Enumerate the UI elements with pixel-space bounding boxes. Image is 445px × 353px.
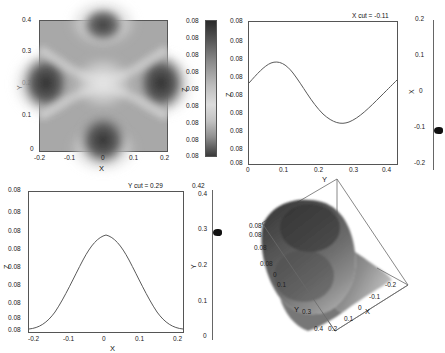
ycut-ytick-5: 0.08 <box>8 246 21 253</box>
yslider-tick-0: 0.4 <box>198 191 207 198</box>
surface-xtick-2: 0 <box>358 305 362 312</box>
yslider-tick-1: 0.3 <box>198 226 207 233</box>
ycut-panel: Y cut = 0.29 0.08 0.08 0.08 0.08 0.08 0.… <box>0 176 222 353</box>
ycut-ylabel: Z <box>3 265 10 269</box>
ycut-plot-area[interactable] <box>28 191 184 333</box>
xcut-ytick-1: 0.08 <box>230 146 243 153</box>
surface-ytick-3: 0.4 <box>314 326 323 333</box>
xslider-tick-3: -0.1 <box>414 124 425 131</box>
xcut-xtick-4: 0.4 <box>382 167 391 174</box>
yslider-tick-2: 0.2 <box>198 262 207 269</box>
xcut-plot-area[interactable] <box>248 21 398 165</box>
surface-ztick-1: 0.08 <box>254 245 267 252</box>
yslider-knob[interactable] <box>213 229 222 236</box>
heatmap-panel: 0.4 0.3 0.2 0.1 0 Y <box>0 0 222 176</box>
xcut-xtick-0: 0 <box>246 167 250 174</box>
ycut-xtick-4: 0.2 <box>173 336 182 343</box>
xcut-xtick-2: 0.2 <box>314 167 323 174</box>
ycut-ytick-0: 0.08 <box>8 327 21 334</box>
xcut-xtick-3: 0.3 <box>349 167 358 174</box>
colorbar-tick-0: 0.08 <box>186 153 199 160</box>
xslider-tick-0: 0.2 <box>415 16 424 23</box>
surface-xtick-1: -0.1 <box>369 294 380 301</box>
xslider-tick-4: -0.2 <box>414 160 425 167</box>
ycut-xtick-3: 0.1 <box>135 336 144 343</box>
ycut-ytick-3: 0.08 <box>8 282 21 289</box>
ycut-xtick-1: -0.1 <box>63 336 74 343</box>
ycut-xtick-0: -0.2 <box>28 336 39 343</box>
heatmap-xtick-0: -0.2 <box>34 155 45 162</box>
xslider-track[interactable] <box>433 20 434 170</box>
heatmap-ytick-4: 0.4 <box>22 17 31 24</box>
colorbar-tick-5: 0.08 <box>186 69 199 76</box>
ycut-ytick-8: 0.08 <box>8 187 21 194</box>
surface-panel[interactable]: 0.08 0.08 0.08 0.08 0 0.1 0.3 0.4 Y 0.2 … <box>222 176 445 353</box>
colorbar-tick-7: 0.08 <box>186 35 199 42</box>
colorbar-strip[interactable] <box>205 20 217 157</box>
colorbar-tick-2: 0.08 <box>186 120 199 127</box>
colorbar-tick-6: 0.08 <box>186 52 199 59</box>
heatmap-xtick-1: -0.1 <box>64 155 75 162</box>
colorbar-tick-8: 0.08 <box>186 18 199 25</box>
xslider-tick-2: 0 <box>419 88 423 95</box>
yslider-track[interactable] <box>212 190 213 340</box>
heatmap-xtick-4: 0.2 <box>160 155 169 162</box>
surface-xtick-3: 0.1 <box>344 316 353 323</box>
xslider-label: X <box>408 89 415 94</box>
xcut-ytick-7: 0.08 <box>230 38 243 45</box>
xcut-ytick-6: 0.08 <box>230 56 243 63</box>
xcut-panel: X cut = -0.11 0.08 0.08 0.08 0.08 0.08 0… <box>222 0 445 176</box>
xslider-knob[interactable] <box>434 127 443 134</box>
xslider-tick-1: 0.1 <box>415 52 424 59</box>
heatmap-xtick-3: 0.1 <box>129 155 138 162</box>
surface-xtick-4: 0.2 <box>328 326 337 333</box>
yslider-top-label: 0.42 <box>192 183 205 190</box>
surface-ztick-0: 0.08 <box>260 261 273 268</box>
ycut-xlabel: X <box>110 345 115 353</box>
ycut-xtick-2: 0 <box>102 336 106 343</box>
surface-ytick-0: 0 <box>273 272 277 279</box>
yslider-label: Y <box>190 264 197 269</box>
xcut-ytick-0: 0.08 <box>230 160 243 167</box>
ycut-ytick-2: 0.08 <box>8 300 21 307</box>
surface-mesh <box>262 200 392 331</box>
surface-ytick-1: 0.1 <box>277 282 286 289</box>
colorbar-gradient <box>206 21 216 156</box>
ycut-ytick-6: 0.08 <box>8 228 21 235</box>
colorbar-tick-3: 0.08 <box>186 103 199 110</box>
xcut-ylabel: Z <box>225 93 232 97</box>
ycut-curve <box>29 192 183 332</box>
surface-xtick-0: -0.2 <box>385 282 396 289</box>
xcut-xtick-1: 0.1 <box>279 167 288 174</box>
xcut-ytick-5: 0.08 <box>230 74 243 81</box>
ycut-ytick-7: 0.08 <box>8 209 21 216</box>
ycut-ytick-1: 0.08 <box>8 315 21 322</box>
colorbar-label: Z <box>181 88 188 92</box>
colorbar-tick-1: 0.08 <box>186 137 199 144</box>
surface-ytick-2: 0.3 <box>302 309 311 316</box>
heatmap-ytick-3: 0.3 <box>22 48 31 55</box>
surface-ylabel: Y <box>294 306 299 314</box>
ycut-label: Y cut = 0.29 <box>128 183 163 190</box>
heatmap-svg <box>40 21 167 151</box>
surface-xlabel: X <box>365 308 370 316</box>
xcut-ytick-8: 0.08 <box>230 18 243 25</box>
xcut-label: X cut = -0.11 <box>352 13 389 20</box>
yslider-tick-4: 0 <box>203 333 207 340</box>
yslider-tick-3: 0.1 <box>198 298 207 305</box>
xcut-curve <box>249 22 397 164</box>
xcut-ytick-3: 0.08 <box>230 110 243 117</box>
surface-ztick-3: 0.08 <box>249 223 262 230</box>
xcut-ytick-2: 0.08 <box>230 128 243 135</box>
heatmap-ytick-0: 0 <box>30 146 34 153</box>
surface-ztick-2: 0.08 <box>249 232 262 239</box>
heatmap-image[interactable] <box>39 20 168 152</box>
heatmap-xlabel: X <box>99 165 104 173</box>
heatmap-xtick-2: 0 <box>101 155 105 162</box>
